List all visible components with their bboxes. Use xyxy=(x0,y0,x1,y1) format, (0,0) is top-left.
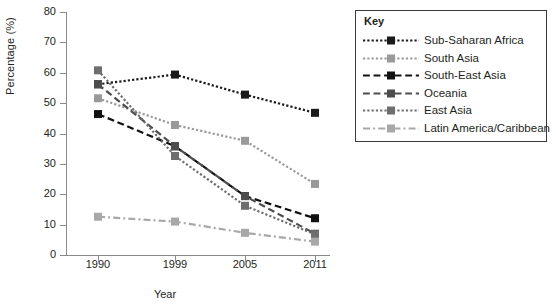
data-point-marker xyxy=(241,91,249,99)
data-point-marker xyxy=(241,137,249,145)
legend-line-swatch-icon xyxy=(362,67,420,84)
legend-line-swatch-icon xyxy=(362,85,420,102)
series-lines-and-markers xyxy=(0,0,346,307)
data-point-marker xyxy=(171,152,179,160)
legend-line-swatch-icon xyxy=(362,102,420,119)
data-point-marker xyxy=(311,230,319,238)
data-point-marker xyxy=(171,71,179,79)
legend-item-label: Latin America/Caribbean xyxy=(424,122,550,134)
legend-item-label: South-East Asia xyxy=(424,69,506,81)
data-point-marker xyxy=(171,218,179,226)
data-point-marker xyxy=(241,192,249,200)
data-point-marker xyxy=(94,213,102,221)
data-point-marker xyxy=(311,180,319,188)
legend-line-swatch-icon xyxy=(362,120,420,137)
legend-item[interactable]: East Asia xyxy=(362,102,544,119)
chart-figure: Percentage (%) Year 80706050403020100 19… xyxy=(0,0,556,307)
legend-item-label: Oceania xyxy=(424,87,467,99)
series-sub-saharan-africa xyxy=(94,71,319,117)
legend-item[interactable]: Sub-Saharan Africa xyxy=(362,32,544,49)
data-point-marker xyxy=(241,229,249,237)
legend-item[interactable]: South-East Asia xyxy=(362,67,544,84)
data-point-marker xyxy=(94,94,102,102)
legend-item-label: Sub-Saharan Africa xyxy=(424,34,524,46)
data-point-marker xyxy=(94,66,102,74)
legend-box: Key Sub-Saharan AfricaSouth AsiaSouth-Ea… xyxy=(355,10,547,142)
data-point-marker xyxy=(311,214,319,222)
legend-item[interactable]: South Asia xyxy=(362,50,544,67)
data-point-marker xyxy=(241,202,249,210)
data-point-marker xyxy=(171,142,179,150)
data-point-marker xyxy=(311,238,319,246)
series-east-asia xyxy=(94,66,319,238)
series-line xyxy=(98,70,315,234)
legend-line-swatch-icon xyxy=(362,32,420,49)
series-line xyxy=(98,114,315,218)
data-point-marker xyxy=(311,109,319,117)
legend-item-label: South Asia xyxy=(424,52,479,64)
legend-line-swatch-icon xyxy=(362,50,420,67)
legend-item[interactable]: Oceania xyxy=(362,85,544,102)
data-point-marker xyxy=(94,80,102,88)
legend-item[interactable]: Latin America/Caribbean xyxy=(362,120,544,137)
legend-title: Key xyxy=(364,15,384,27)
plot-area: Percentage (%) Year 80706050403020100 19… xyxy=(0,0,346,307)
series-latin-america-caribbean xyxy=(94,213,319,246)
data-point-marker xyxy=(171,121,179,129)
series-line xyxy=(98,98,315,184)
series-south-east-asia xyxy=(94,110,319,222)
legend-item-label: East Asia xyxy=(424,104,472,116)
data-point-marker xyxy=(94,110,102,118)
